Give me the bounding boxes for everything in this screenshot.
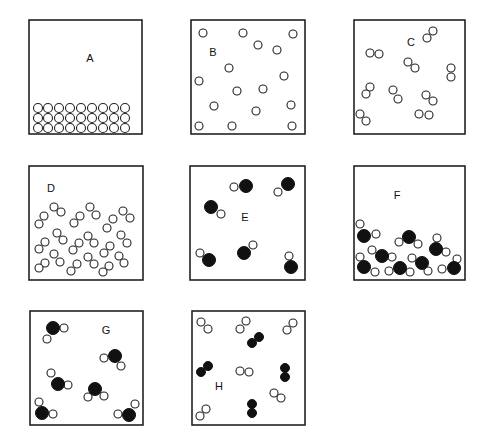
open-atom-icon	[230, 183, 238, 191]
open-atom-icon	[283, 326, 291, 334]
open-atom-icon	[103, 224, 111, 232]
open-atom-icon	[73, 260, 81, 268]
panel-label: H	[215, 380, 223, 392]
open-atom-icon	[34, 114, 43, 123]
open-atom-icon	[66, 104, 75, 113]
open-atom-icon	[55, 124, 64, 133]
open-atom-icon	[287, 101, 295, 109]
open-atom-icon	[64, 381, 72, 389]
filled-atom-icon	[248, 339, 257, 348]
panel-h: H	[192, 311, 305, 425]
open-atom-icon	[110, 124, 119, 133]
open-atom-icon	[90, 260, 98, 268]
open-atom-icon	[35, 220, 43, 228]
open-atom-icon	[69, 246, 77, 254]
filled-atom-icon	[430, 243, 443, 256]
open-atom-icon	[406, 268, 414, 276]
open-atom-icon	[356, 220, 364, 228]
open-atom-icon	[225, 64, 233, 72]
panel-d: D	[29, 166, 143, 280]
open-atom-icon	[43, 335, 51, 343]
open-atom-icon	[414, 240, 422, 248]
filled-atom-icon	[403, 231, 416, 244]
open-atom-icon	[288, 122, 296, 130]
filled-atom-icon	[358, 230, 371, 243]
open-atom-icon	[35, 398, 43, 406]
filled-atom-icon	[394, 262, 407, 275]
open-atom-icon	[55, 104, 64, 113]
open-atom-icon	[280, 72, 288, 80]
open-atom-icon	[123, 239, 131, 247]
open-atom-icon	[121, 104, 130, 113]
open-atom-icon	[388, 253, 396, 261]
open-atom-icon	[88, 104, 97, 113]
open-atom-icon	[110, 104, 119, 113]
open-atom-icon	[242, 317, 250, 325]
filled-atom-icon	[248, 400, 257, 409]
open-atom-icon	[372, 230, 380, 238]
open-atom-icon	[362, 117, 370, 125]
open-atom-icon	[202, 405, 210, 413]
open-atom-icon	[277, 394, 285, 402]
open-atom-icon	[121, 114, 130, 123]
open-atom-icon	[100, 249, 108, 257]
open-atom-icon	[117, 362, 125, 370]
open-atom-icon	[59, 236, 67, 244]
open-atom-icon	[88, 114, 97, 123]
panel-a: A	[29, 20, 142, 134]
open-atom-icon	[114, 410, 122, 418]
open-atom-icon	[210, 102, 218, 110]
open-atom-icon	[204, 325, 212, 333]
filled-atom-icon	[123, 409, 136, 422]
open-atom-icon	[195, 77, 203, 85]
filled-atom-icon	[109, 350, 122, 363]
open-atom-icon	[394, 95, 402, 103]
filled-atom-icon	[358, 261, 371, 274]
open-atom-icon	[447, 73, 455, 81]
open-atom-icon	[289, 30, 297, 38]
open-atom-icon	[50, 203, 58, 211]
open-atom-icon	[90, 239, 98, 247]
filled-atom-icon	[282, 178, 295, 191]
filled-atom-icon	[281, 364, 290, 373]
open-atom-icon	[66, 114, 75, 123]
panel-e: E	[190, 166, 305, 280]
open-atom-icon	[109, 215, 117, 223]
open-atom-icon	[106, 242, 114, 250]
open-atom-icon	[119, 207, 127, 215]
open-atom-icon	[368, 246, 376, 254]
open-atom-icon	[389, 86, 397, 94]
open-atom-icon	[252, 107, 260, 115]
panel-label: F	[394, 189, 401, 201]
open-atom-icon	[55, 114, 64, 123]
open-atom-icon	[385, 267, 393, 275]
open-atom-icon	[49, 410, 57, 418]
panel-label: E	[241, 211, 248, 223]
open-atom-icon	[84, 232, 92, 240]
open-atom-icon	[121, 124, 130, 133]
open-atom-icon	[236, 367, 244, 375]
open-atom-icon	[289, 319, 297, 327]
filled-atom-icon	[197, 368, 206, 377]
panel-label: G	[102, 324, 111, 336]
panel-f: F	[354, 166, 465, 280]
open-atom-icon	[422, 91, 430, 99]
open-atom-icon	[245, 368, 253, 376]
panel-label: B	[209, 46, 216, 58]
open-atom-icon	[375, 50, 383, 58]
open-atom-icon	[196, 412, 204, 420]
open-atom-icon	[197, 318, 205, 326]
open-atom-icon	[40, 212, 48, 220]
filled-atom-icon	[203, 254, 216, 267]
open-atom-icon	[100, 354, 108, 362]
open-atom-icon	[447, 64, 455, 72]
open-atom-icon	[429, 97, 437, 105]
open-atom-icon	[274, 188, 282, 196]
open-atom-icon	[44, 114, 53, 123]
open-atom-icon	[356, 110, 364, 118]
open-atom-icon	[84, 253, 92, 261]
open-atom-icon	[442, 248, 450, 256]
open-atom-icon	[70, 219, 78, 227]
open-atom-icon	[99, 104, 108, 113]
open-atom-icon	[67, 267, 75, 275]
